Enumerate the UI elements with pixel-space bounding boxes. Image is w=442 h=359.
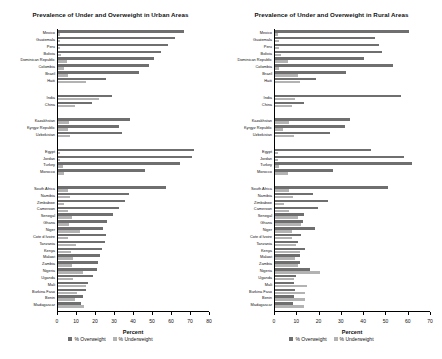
bar-row: Malawi: [57, 254, 209, 260]
x-axis-label: Percent: [274, 329, 430, 335]
bar-underweight: [275, 196, 293, 199]
category-label: Brazil: [262, 72, 272, 76]
bar-underweight: [275, 264, 298, 267]
bar-row: Egypt: [57, 149, 209, 155]
category-label: Namibia: [258, 194, 272, 198]
bar-row: Ghana: [274, 220, 430, 226]
x-axis-tick-label: 80: [206, 318, 212, 324]
bar-underweight: [275, 67, 279, 70]
bar-row: Brazil: [57, 71, 209, 77]
category-label: Uganda: [258, 276, 272, 280]
bar-underweight: [58, 54, 61, 57]
bar-row: Zambia: [274, 261, 430, 267]
x-axis-tick-label: 30: [111, 318, 117, 324]
x-axis-tick: [430, 312, 431, 315]
bar-row: Namibia: [274, 193, 430, 199]
bar-underweight: [275, 54, 281, 57]
bar-overweight: [58, 186, 166, 189]
bar-row: Benin: [274, 295, 430, 301]
x-axis-tick-label: 30: [338, 318, 344, 324]
bar-overweight: [58, 51, 161, 54]
bar-underweight: [275, 159, 278, 162]
category-label: Cote d Ivoire: [33, 235, 55, 239]
bar-underweight: [58, 298, 75, 301]
category-label: Egypt: [45, 150, 55, 154]
category-label: Bolivia: [44, 52, 55, 56]
bar-row: Guatemala: [274, 37, 430, 43]
legend-label-overweight: % Overweight: [74, 336, 105, 342]
bar-row: Brazil: [274, 71, 430, 77]
x-axis-tick-label: 60: [168, 318, 174, 324]
category-label: Senegal: [41, 214, 55, 218]
category-label: Nigeria: [43, 269, 55, 273]
bar-underweight: [58, 223, 69, 226]
category-label: Zimbabwe: [37, 201, 55, 205]
chart-title-rural: Prevalence of Under and Overweight in Ru…: [221, 11, 442, 18]
category-label: Tanzania: [256, 242, 272, 246]
bar-underweight: [58, 189, 68, 192]
panel-urban: Prevalence of Under and Overweight in Ur…: [0, 0, 221, 359]
bar-overweight: [58, 149, 194, 152]
x-axis-tick: [363, 312, 364, 315]
category-label: China: [45, 103, 55, 107]
bar-underweight: [275, 251, 300, 254]
chart-title-urban: Prevalence of Under and Overweight in Ur…: [0, 11, 221, 18]
bar-row: Bolivia: [274, 51, 430, 57]
bar-overweight: [58, 64, 149, 67]
category-label: Jordan: [260, 157, 272, 161]
category-label: Dominican Republic: [20, 58, 55, 62]
bar-row: Tanzania: [274, 241, 430, 247]
category-label: India: [264, 96, 272, 100]
category-label: Guatemala: [253, 38, 272, 42]
bar-row: Kyrgyz Republic: [274, 125, 430, 131]
bar-row: South Africa: [57, 186, 209, 192]
legend-swatch-underweight-icon: [113, 337, 117, 341]
legend-item-overweight: % Overweight: [68, 336, 105, 342]
bar-row: Cameroon: [274, 206, 430, 212]
category-label: Uganda: [41, 276, 55, 280]
bar-row: Kazakhstan: [57, 118, 209, 124]
bar-underweight: [58, 47, 60, 50]
bar-row: Dominican Republic: [274, 57, 430, 63]
bar-row: Dominican Republic: [57, 57, 209, 63]
bar-underweight: [58, 152, 60, 155]
category-label: Senegal: [258, 214, 272, 218]
category-label: South Africa: [34, 187, 55, 191]
bar-overweight: [58, 200, 125, 203]
bar-underweight: [275, 298, 305, 301]
bar-row: India: [57, 95, 209, 101]
bar-row: Morocco: [274, 169, 430, 175]
category-label: Benin: [262, 296, 272, 300]
x-axis-tick: [296, 312, 297, 315]
bar-row: Niger: [57, 227, 209, 233]
bar-row: China: [57, 101, 209, 107]
panel-rural: Prevalence of Under and Overweight in Ru…: [221, 0, 442, 359]
x-axis-tick-label: 40: [130, 318, 136, 324]
category-label: Nigeria: [260, 269, 272, 273]
bar-overweight: [275, 30, 409, 33]
x-axis-tick: [114, 312, 115, 315]
bar-row: Peru: [274, 44, 430, 50]
bar-row: Kenya: [57, 247, 209, 253]
category-label: Niger: [263, 228, 272, 232]
legend-label-overweight: % Overweight: [295, 336, 326, 342]
bar-underweight: [275, 244, 296, 247]
legend-label-underweight: % Underweight: [119, 336, 153, 342]
bar-underweight: [58, 244, 76, 247]
bar-underweight: [58, 165, 63, 168]
bar-row: Uzbekistan: [274, 132, 430, 138]
bar-row: Madagascar: [57, 302, 209, 308]
bar-underweight: [275, 121, 289, 124]
category-label: Uzbekistan: [36, 133, 55, 137]
category-label: Benin: [45, 296, 55, 300]
bar-underweight: [58, 60, 67, 63]
bar-row: China: [274, 101, 430, 107]
category-label: South Africa: [251, 187, 272, 191]
bar-underweight: [58, 135, 70, 138]
bar-underweight: [275, 223, 301, 226]
category-label: Kazakhstan: [252, 119, 272, 123]
bar-underweight: [58, 271, 83, 274]
category-label: Colombia: [39, 65, 55, 69]
bar-overweight: [275, 44, 379, 47]
x-axis-tick-label: 40: [360, 318, 366, 324]
